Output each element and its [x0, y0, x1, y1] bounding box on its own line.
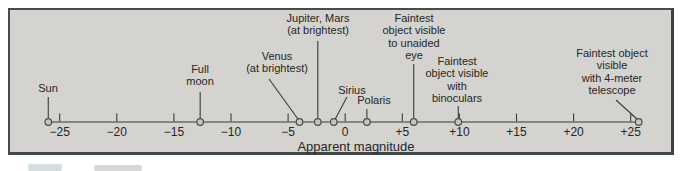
- point-label-jupiter-mars: Jupiter, Mars(at brightest): [287, 12, 350, 37]
- cropped-caption-fragment-left: [28, 164, 62, 171]
- cropped-caption-fragment-right: [94, 165, 142, 171]
- tick-label: +10: [449, 125, 470, 139]
- marker-jupiter-mars: [314, 119, 321, 126]
- point-label-venus: Venus(at brightest): [246, 50, 308, 75]
- marker-venus: [296, 119, 303, 126]
- tick-label: −15: [164, 125, 185, 139]
- magnitude-number-line: −25−20−15−10−50+5+10+15+20+25SunFullmoon…: [0, 0, 680, 171]
- tick-label: +5: [395, 125, 409, 139]
- tick-label: −25: [50, 125, 71, 139]
- tick-label: +20: [563, 125, 584, 139]
- tick-label: −20: [107, 125, 128, 139]
- marker-full-moon: [197, 119, 204, 126]
- point-label-sun: Sun: [38, 82, 58, 94]
- pointer-venus: [269, 79, 298, 120]
- marker-unaided-eye: [410, 119, 417, 126]
- marker-binoculars: [455, 119, 462, 126]
- point-label-full-moon: Fullmoon: [186, 63, 214, 88]
- marker-polaris: [364, 119, 371, 126]
- tick-label: −5: [281, 125, 295, 139]
- point-label-telescope: Faintest objectvisiblewith 4-metertelesc…: [576, 47, 648, 97]
- point-label-unaided-eye: Faintestobject visibleto unaidedeye: [383, 12, 446, 62]
- tick-label: +15: [506, 125, 527, 139]
- pointer-telescope: [616, 100, 637, 120]
- marker-sirius: [330, 119, 337, 126]
- tick-label: +25: [621, 125, 642, 139]
- x-axis-title: Apparent magnitude: [297, 139, 414, 154]
- chart-generated: −25−20−15−10−50+5+10+15+20+25SunFullmoon…: [38, 12, 648, 140]
- marker-telescope: [635, 119, 642, 126]
- point-label-polaris: Polaris: [357, 94, 391, 106]
- tick-label: 0: [342, 125, 349, 139]
- point-label-binoculars: Faintestobject visiblewithbinoculars: [426, 55, 489, 105]
- marker-sun: [45, 119, 52, 126]
- tick-label: −10: [221, 125, 242, 139]
- figure-canvas: −25−20−15−10−50+5+10+15+20+25SunFullmoon…: [0, 0, 680, 171]
